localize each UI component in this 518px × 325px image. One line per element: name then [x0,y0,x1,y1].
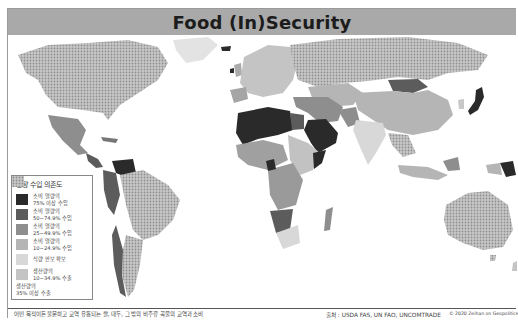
region-iceland [221,46,231,51]
region-australia [444,191,513,250]
footer-note: 어떤 목적이든 불문하고 교역 유통되는 쌀, 대두, 그 밖의 비주류 곡물의… [14,310,203,318]
region-brazil [120,170,180,240]
region-mongolia [388,79,428,93]
title-bar: Food (In)Security [8,9,516,35]
legend-item-10-25-import: 소비 열량의 10~24.9% 수입 [16,237,88,252]
region-horn-africa [313,150,326,169]
legend-label-line1: 식량 안보 확보 [33,256,66,262]
region-tasmania [490,255,496,261]
footer-copyright: © 2020 Zeihan on Geopolitics [449,311,518,316]
swatch-secure [16,254,28,265]
region-west-africa [236,140,288,170]
region-colombia-peru [103,170,120,215]
region-iberia [230,87,248,103]
legend-item-50-75-import: 소비 열량의 50~74.9% 수입 [16,207,88,222]
region-west-papua [486,163,502,175]
region-japan [468,87,484,115]
legend-item-food-secure: 식량 안보 확보 [16,252,88,267]
legend-item-35-plus-export: 생산량의 35% 이상 수출 [16,282,88,297]
region-new-zealand [512,261,517,271]
region-india [353,120,386,165]
region-korea [458,99,464,109]
region-madagascar [324,207,333,231]
legend-title: 열량 수입 의존도 [16,179,88,189]
legend-label-line2: 10~24.9% 수입 [33,245,72,251]
region-europe [240,45,298,97]
swatch-75-plus [16,194,28,205]
region-egypt [290,113,304,130]
legend-label-line2: 10~34.9% 수출 [33,275,72,281]
region-caribbean [101,137,118,143]
region-central-america [86,153,103,168]
swatch-25-50 [16,224,28,235]
region-north-america [18,40,168,120]
page-title: Food (In)Security [173,12,352,33]
region-indonesia [398,165,448,180]
legend-label-line2: 25~49.9% 수입 [33,230,72,236]
swatch-export-10-35 [16,269,28,280]
region-borneo [443,157,460,171]
swatch-export-35-plus [12,176,24,187]
legend-item-75-plus-import: 소비 열량의 75% 이상 수입 [16,192,88,207]
infographic-frame: Food (In)Security [7,8,516,318]
legend-label-line2: 35% 이상 수출 [16,290,51,296]
region-mexico [48,115,88,155]
legend-label-line2: 75% 이상 수입 [33,200,68,206]
footer-source: 출처 : USDA FAS, UN FAO, UNCOMTRADE [326,310,441,319]
region-ireland [230,68,234,73]
legend: 열량 수입 의존도 소비 열량의 75% 이상 수입 소비 열량의 50~74.… [11,175,93,300]
region-russia [290,37,488,87]
region-papua-new-guinea [500,161,516,177]
world-map: 열량 수입 의존도 소비 열량의 75% 이상 수입 소비 열량의 50~74.… [8,35,517,307]
legend-item-10-35-export: 생산량의 10~34.9% 수출 [16,267,88,282]
legend-item-25-50-import: 소비 열량의 25~49.9% 수입 [16,222,88,237]
region-southeast-asia [388,133,416,157]
region-greenland [173,37,218,63]
swatch-50-75 [16,209,28,220]
region-north-africa-dark [236,107,293,145]
footer-divider [8,308,516,309]
swatch-10-25 [16,239,28,250]
legend-label-line2: 50~74.9% 수입 [33,215,72,221]
region-uk [234,63,242,77]
region-argentina [122,235,143,297]
